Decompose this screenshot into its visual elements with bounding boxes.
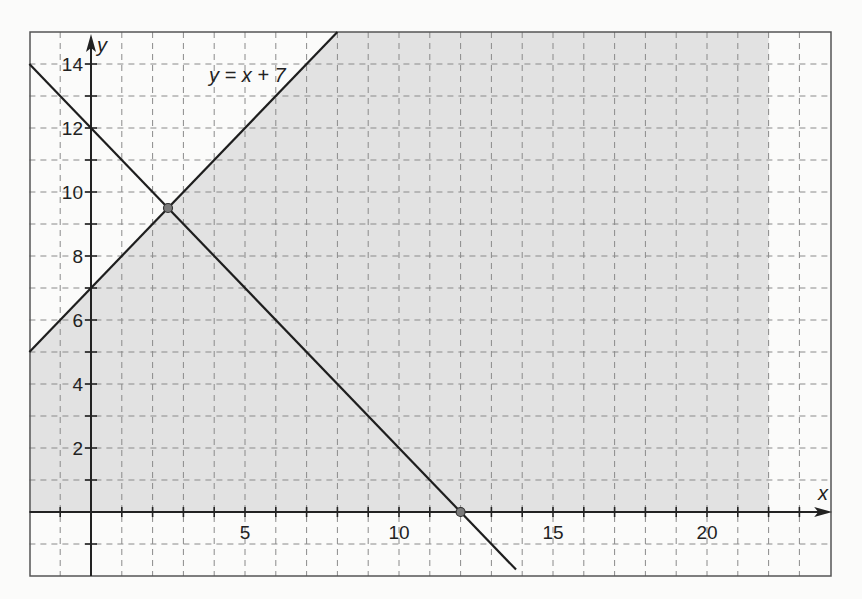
y-axis-label: y (95, 34, 108, 56)
y-tick-label: 14 (62, 54, 84, 75)
x-tick-label: 15 (542, 522, 563, 543)
x-tick-label: 20 (696, 522, 717, 543)
y-tick-label: 2 (72, 438, 83, 459)
x-axis-label: x (817, 482, 829, 504)
intersection-point (456, 508, 465, 517)
y-tick-label: 8 (72, 246, 83, 267)
x-tick-label: 5 (240, 522, 251, 543)
y-tick-label: 12 (62, 118, 83, 139)
linear-inequality-chart: 5 10 15 20 14 12 10 8 6 4 2 x y y = x + … (0, 0, 862, 599)
x-tick-label: 10 (388, 522, 409, 543)
y-tick-label: 6 (72, 310, 83, 331)
y-tick-label: 10 (62, 182, 83, 203)
y-tick-label: 4 (72, 374, 83, 395)
intersection-point (164, 204, 173, 213)
equation-label: y = x + 7 (207, 64, 287, 86)
